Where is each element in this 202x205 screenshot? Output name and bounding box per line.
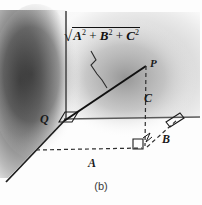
distance-formula: √A2 + B2 + C2 <box>64 27 140 44</box>
formula-plus-2: + <box>116 28 123 43</box>
figure-caption: (b) <box>0 180 202 192</box>
length-label-C: C <box>144 92 152 104</box>
length-label-B: B <box>162 133 170 145</box>
formula-plus-1: + <box>89 28 96 43</box>
point-label-P: P <box>150 58 157 69</box>
formula-term-A: A <box>73 28 82 43</box>
figure-3d-distance-diagram: √A2 + B2 + C2 P C B A Q (b) <box>0 0 202 205</box>
radical-sign: √ <box>64 28 72 44</box>
point-label-Q: Q <box>40 113 49 125</box>
length-label-A: A <box>88 157 96 169</box>
formula-term-C: C <box>126 28 135 43</box>
formula-exponent-C: 2 <box>135 28 139 37</box>
